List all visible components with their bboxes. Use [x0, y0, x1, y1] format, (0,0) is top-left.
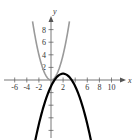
ticks: -6-4-2268102468 [11, 26, 115, 131]
x-tick-label: 8 [97, 83, 101, 92]
y-axis-label: y [52, 7, 57, 16]
parabola-plot: x y -6-4-2268102468 [0, 0, 135, 140]
y-axis-arrow-icon [49, 16, 54, 22]
x-tick-label: -6 [11, 83, 18, 92]
x-axis-arrow-icon [120, 78, 126, 83]
y-tick-label: 4 [42, 51, 46, 60]
x-axis-label: x [127, 76, 132, 85]
y-tick-label: 8 [42, 26, 46, 35]
x-tick-label: -4 [23, 83, 30, 92]
x-tick-label: 10 [108, 83, 116, 92]
x-tick-label: 6 [85, 83, 89, 92]
y-tick-label: 6 [42, 38, 46, 47]
x-tick-label: -2 [36, 83, 43, 92]
x-tick-label: 2 [61, 83, 65, 92]
